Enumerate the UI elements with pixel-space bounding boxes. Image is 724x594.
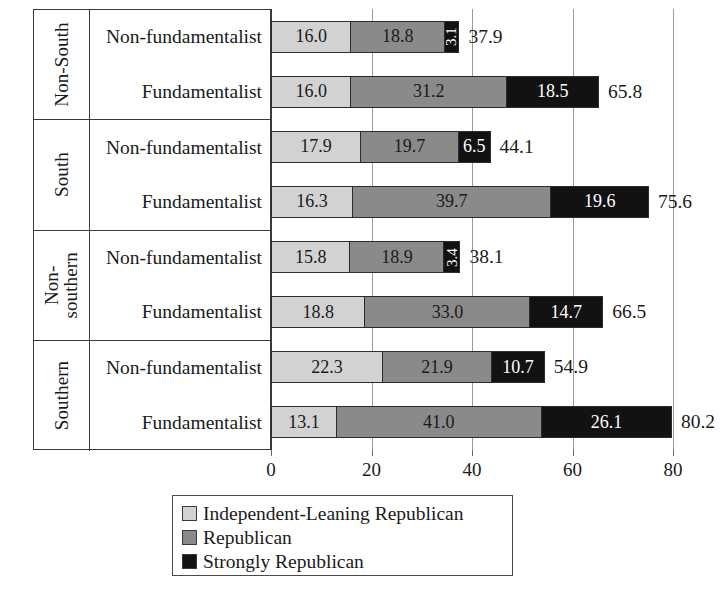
group-name-cell: Non-southern (34, 231, 90, 340)
bar-row: 16.018.83.137.9 (271, 21, 503, 53)
bar-segment-value: 3.1 (444, 27, 460, 46)
legend: Independent-Leaning RepublicanRepublican… (172, 495, 513, 576)
bar-segment: 18.8 (350, 21, 444, 53)
row-label: Fundamentalist (90, 396, 271, 451)
bar-total-label: 44.1 (491, 131, 534, 163)
bar-total-label: 80.2 (672, 406, 715, 438)
group-name-cell: Southern (34, 341, 90, 451)
axis-tick-label: 60 (563, 459, 582, 481)
group-name-label: South (52, 152, 71, 197)
bar-total-label: 54.9 (545, 351, 588, 383)
bar-total-label: 66.5 (603, 296, 646, 328)
bar-segment-value: 13.1 (288, 412, 320, 433)
bar-segment-value: 18.5 (537, 81, 569, 102)
bar-segment-value: 10.7 (502, 357, 534, 378)
axis-tick-mark (673, 450, 674, 456)
bar-segment-value: 21.9 (421, 357, 453, 378)
bar-row: 18.833.014.766.5 (271, 296, 646, 328)
bar-total-label: 65.8 (599, 76, 642, 108)
bar-total-label: 38.1 (460, 241, 503, 273)
bar-total-label: 75.6 (649, 186, 692, 218)
axis-tick-label: 40 (463, 459, 482, 481)
row-label: Fundamentalist (90, 65, 271, 120)
legend-swatch (182, 554, 197, 569)
row-label: Fundamentalist (90, 285, 271, 340)
stacked-bar-chart: Non-SouthNon-fundamentalistFundamentalis… (0, 0, 724, 594)
bar-segment: 26.1 (541, 406, 672, 438)
bar-segment: 3.4 (443, 241, 460, 273)
bar-row: 22.321.910.754.9 (271, 351, 588, 383)
bar-segment-value: 18.8 (302, 302, 334, 323)
bar-segment-value: 18.8 (382, 26, 414, 47)
axis-tick-label: 20 (362, 459, 381, 481)
bar-segment: 39.7 (352, 186, 551, 218)
group-name-cell: South (34, 120, 90, 229)
bar-segment-value: 26.1 (591, 412, 623, 433)
bar-segment: 41.0 (336, 406, 542, 438)
bar-segment-value: 3.4 (443, 248, 460, 267)
bar-segment: 19.6 (550, 186, 648, 218)
bar-segment-value: 15.8 (295, 247, 327, 268)
bar-segment-value: 33.0 (432, 302, 464, 323)
axis-tick-mark (472, 450, 473, 456)
bar-segment: 18.9 (349, 241, 444, 273)
group-name-cell: Non-South (34, 10, 90, 119)
row-label: Fundamentalist (90, 175, 271, 230)
bar-row: 13.141.026.180.2 (271, 406, 715, 438)
bar-segment: 18.8 (271, 296, 365, 328)
legend-label: Republican (203, 528, 292, 548)
row-label: Non-fundamentalist (90, 120, 271, 175)
bar-segment-value: 16.0 (295, 26, 327, 47)
group-name-label: Non-South (52, 22, 71, 106)
bar-segment: 16.3 (271, 186, 353, 218)
bar-segment-value: 17.9 (300, 136, 332, 157)
category-label-table: Non-SouthNon-fundamentalistFundamentalis… (33, 9, 272, 450)
axis-tick-mark (573, 450, 574, 456)
row-label: Non-fundamentalist (90, 10, 271, 65)
bar-segment-value: 19.6 (584, 191, 616, 212)
legend-item: Strongly Republican (182, 550, 512, 573)
row-label: Non-fundamentalist (90, 231, 271, 286)
bar-segment-value: 22.3 (311, 357, 343, 378)
group-rows: Non-fundamentalistFundamentalist (90, 10, 271, 119)
bar-segment-value: 39.7 (436, 191, 468, 212)
axis-tick-mark (372, 450, 373, 456)
bar-segment: 3.1 (444, 21, 460, 53)
bar-segment-value: 41.0 (423, 412, 455, 433)
group-rows: Non-fundamentalistFundamentalist (90, 231, 271, 340)
bar-segment-value: 16.0 (295, 81, 327, 102)
category-group: SouthNon-fundamentalistFundamentalist (34, 120, 271, 230)
plot-area: 02040608016.018.83.137.916.031.218.565.8… (271, 9, 673, 450)
group-name-label: Southern (52, 361, 71, 430)
axis-tick-label: 80 (664, 459, 683, 481)
bar-total-label: 37.9 (459, 21, 502, 53)
bar-segment: 16.0 (271, 21, 351, 53)
bar-segment-value: 31.2 (413, 81, 445, 102)
axis-tick-mark (271, 450, 272, 456)
bar-row: 15.818.93.438.1 (271, 241, 504, 273)
bar-segment: 14.7 (529, 296, 603, 328)
bar-segment-value: 19.7 (394, 136, 426, 157)
bar-segment-value: 16.3 (296, 191, 328, 212)
category-group: Non-southernNon-fundamentalistFundamenta… (34, 231, 271, 341)
bar-row: 17.919.76.544.1 (271, 131, 534, 163)
bar-segment-value: 18.9 (381, 247, 413, 268)
bar-segment: 17.9 (271, 131, 361, 163)
legend-item: Independent-Leaning Republican (182, 502, 512, 525)
bar-segment-value: 6.5 (463, 136, 486, 157)
bar-segment-value: 14.7 (550, 302, 582, 323)
legend-item: Republican (182, 526, 512, 549)
bar-segment: 10.7 (491, 351, 545, 383)
category-group: SouthernNon-fundamentalistFundamentalist (34, 341, 271, 451)
axis-tick-label: 0 (266, 459, 276, 481)
bar-row: 16.339.719.675.6 (271, 186, 692, 218)
category-group: Non-SouthNon-fundamentalistFundamentalis… (34, 10, 271, 120)
bar-segment: 19.7 (360, 131, 459, 163)
bar-segment: 21.9 (382, 351, 492, 383)
bar-segment: 33.0 (364, 296, 530, 328)
bar-segment: 13.1 (271, 406, 337, 438)
bar-row: 16.031.218.565.8 (271, 76, 642, 108)
legend-swatch (182, 530, 197, 545)
bar-segment: 6.5 (458, 131, 491, 163)
gridline (673, 9, 674, 450)
